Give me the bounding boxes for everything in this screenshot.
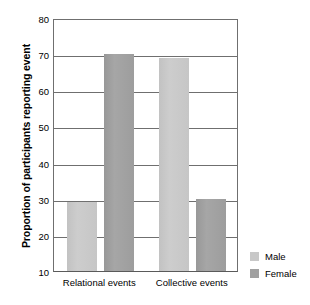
bar-male-collective [159, 58, 189, 271]
y-axis-tick-label: 10 [19, 267, 49, 278]
x-axis-tick-label: Collective events [156, 277, 228, 288]
bar-male-relational [67, 202, 97, 271]
legend-item-male[interactable]: Male [250, 248, 310, 265]
legend-label: Male [265, 251, 286, 262]
y-axis-tick-label: 30 [19, 194, 49, 205]
legend-item-female[interactable]: Female [250, 265, 310, 282]
bar-female-relational [104, 54, 134, 271]
gridline [54, 165, 237, 166]
gridline [54, 92, 237, 93]
bar-chart: Proportion of participants reporting eve… [0, 0, 310, 305]
legend-swatch-icon [250, 269, 259, 278]
y-axis-tick-label: 50 [19, 122, 49, 133]
legend-label: Female [265, 268, 297, 279]
y-axis-tick-label: 80 [19, 14, 49, 25]
y-axis-tick-label: 40 [19, 158, 49, 169]
y-axis-tick-label: 20 [19, 230, 49, 241]
bar-female-collective [196, 199, 226, 271]
plot-area [53, 19, 238, 272]
x-axis-tick-label: Relational events [63, 277, 136, 288]
gridline [54, 128, 237, 129]
legend-swatch-icon [250, 252, 259, 261]
y-axis-tick-label: 70 [19, 50, 49, 61]
legend: MaleFemale [250, 248, 310, 282]
y-axis-tick-label: 60 [19, 86, 49, 97]
gridline [54, 56, 237, 57]
